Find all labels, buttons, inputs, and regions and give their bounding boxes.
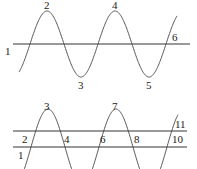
diagram-canvas: 123456 12346781110 (0, 0, 197, 169)
point-label: 2 (22, 133, 28, 145)
point-label: 1 (5, 45, 11, 57)
top-labels: 123456 (5, 0, 178, 91)
point-label: 10 (172, 133, 184, 145)
point-label: 11 (175, 118, 186, 130)
point-label: 8 (134, 133, 140, 145)
point-label: 2 (44, 0, 50, 11)
point-label: 5 (146, 79, 152, 91)
point-label: 3 (78, 79, 84, 91)
point-label: 7 (112, 100, 118, 112)
point-label: 6 (100, 133, 106, 145)
point-label: 1 (18, 149, 24, 161)
sine-diagram: 123456 12346781110 (0, 0, 197, 169)
point-label: 4 (64, 133, 70, 145)
point-label: 6 (172, 31, 178, 43)
point-label: 4 (112, 0, 118, 11)
point-label: 3 (44, 100, 50, 112)
